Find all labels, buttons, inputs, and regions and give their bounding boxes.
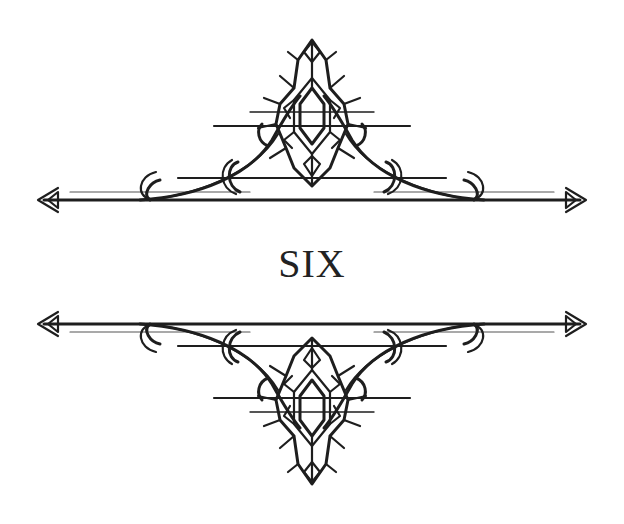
bottom-ornament: [0, 294, 624, 524]
gothic-crest-divider-icon: [0, 294, 624, 524]
top-ornament: [0, 0, 624, 230]
gothic-crest-divider-icon: [0, 0, 624, 230]
chapter-title: SIX: [0, 236, 624, 292]
